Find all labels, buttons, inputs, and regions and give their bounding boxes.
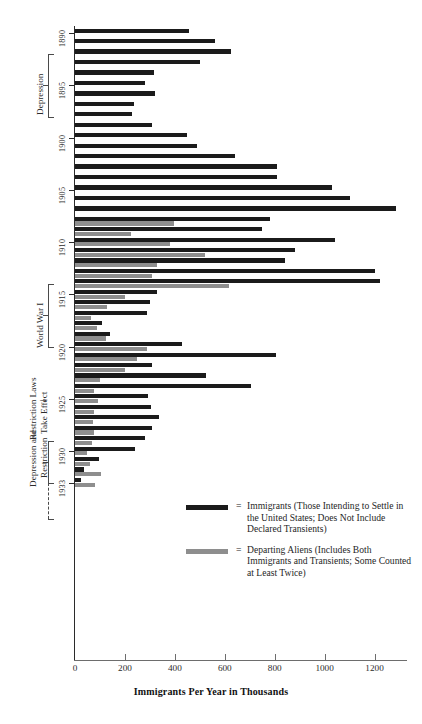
bar-departing-aliens [75, 263, 157, 267]
bar-immigrants [75, 394, 148, 398]
bar-immigrants [75, 185, 332, 189]
bar-row [75, 247, 407, 257]
bar-immigrants [75, 342, 182, 346]
legend-item-departing-aliens: = Departing Aliens (Includes Both Immigr… [186, 544, 414, 579]
bar-row [75, 174, 407, 184]
bar-immigrants [75, 478, 81, 482]
bar-departing-aliens [75, 242, 170, 246]
bar-immigrants [75, 447, 135, 451]
bar-departing-aliens [75, 378, 100, 382]
legend-label-departing-aliens: Departing Aliens (Includes Both Immigran… [247, 544, 414, 579]
bar-immigrants [75, 321, 102, 325]
bar-row [75, 268, 407, 278]
bar-immigrants [75, 258, 285, 262]
bar-departing-aliens [75, 326, 97, 330]
bar-row [75, 237, 407, 247]
x-axis-tick-label: 1000 [315, 663, 333, 673]
bar-departing-aliens [75, 347, 147, 351]
bar-immigrants [75, 81, 145, 85]
bar-row [75, 321, 407, 331]
x-axis-tick [175, 654, 176, 661]
bar-row [75, 436, 407, 446]
bar-row [75, 195, 407, 205]
bar-immigrants [75, 70, 154, 74]
bar-departing-aliens [75, 410, 94, 414]
year-tick [69, 399, 75, 400]
bar-departing-aliens [75, 441, 92, 445]
x-axis-tick-label: 1200 [365, 663, 383, 673]
bar-row [75, 185, 407, 195]
bar-immigrants [75, 91, 155, 95]
year-label: 1895 [58, 82, 67, 99]
bar-row [75, 446, 407, 456]
bar-immigrants [75, 363, 152, 367]
year-tick [69, 347, 75, 348]
bar-row [75, 122, 407, 132]
bar-immigrants [75, 196, 350, 200]
bar-row [75, 143, 407, 153]
x-axis-tick-label: 400 [168, 663, 182, 673]
year-label: 1925 [58, 396, 67, 413]
bar-departing-aliens [75, 357, 137, 361]
bar-departing-aliens [75, 420, 93, 424]
x-axis-tick-label: 0 [73, 663, 78, 673]
bar-row [75, 352, 407, 362]
bar-departing-aliens [75, 472, 101, 476]
bar-row [75, 227, 407, 237]
year-label: 1905 [58, 187, 67, 204]
bar-immigrants [75, 144, 197, 148]
bar-departing-aliens [75, 430, 94, 434]
bar-row [75, 289, 407, 299]
bar-row [75, 91, 407, 101]
bar-immigrants [75, 238, 335, 242]
year-tick [69, 85, 75, 86]
year-tick [69, 138, 75, 139]
bar-row [75, 258, 407, 268]
bar-immigrants [75, 227, 262, 231]
legend-equals-departing: = [236, 544, 241, 555]
bar-immigrants [75, 29, 189, 33]
bar-row [75, 456, 407, 466]
bar-departing-aliens [75, 221, 174, 225]
chart-legend: = Immigrants (Those Intending to Settle … [186, 500, 414, 588]
year-tick [69, 190, 75, 191]
bar-departing-aliens [75, 389, 94, 393]
bar-departing-aliens [75, 284, 229, 288]
bar-row [75, 101, 407, 111]
x-axis-tick [325, 654, 326, 661]
bar-immigrants [75, 217, 270, 221]
bar-immigrants [75, 415, 159, 419]
bar-row [75, 59, 407, 69]
bar-row [75, 49, 407, 59]
x-axis-tick-label: 600 [218, 663, 232, 673]
year-label: 1930 [58, 448, 67, 465]
bar-departing-aliens [75, 336, 106, 340]
bar-immigrants [75, 353, 276, 357]
legend-swatch-immigrants-icon [186, 505, 228, 510]
bar-row [75, 133, 407, 143]
bar-immigrants [75, 279, 380, 283]
bar-row [75, 362, 407, 372]
bar-immigrants [75, 467, 84, 471]
x-axis-tick [275, 654, 276, 661]
bar-departing-aliens [75, 232, 131, 236]
bar-row [75, 28, 407, 38]
bar-immigrants [75, 133, 187, 137]
year-label: 1900 [58, 135, 67, 152]
bar-immigrants [75, 384, 251, 388]
bar-immigrants [75, 373, 206, 377]
bar-row [75, 394, 407, 404]
bar-row [75, 425, 407, 435]
year-label: 1920 [58, 344, 67, 361]
era-label-depression-restriction-line1: Depression and [28, 430, 38, 487]
bar-row [75, 404, 407, 414]
bar-row [75, 279, 407, 289]
bar-immigrants [75, 49, 231, 53]
bar-departing-aliens [75, 274, 152, 278]
bar-departing-aliens [75, 305, 107, 309]
x-axis-tick [125, 654, 126, 661]
year-tick [69, 33, 75, 34]
legend-swatch-departing-aliens-icon [186, 549, 228, 554]
bar-departing-aliens [75, 253, 205, 257]
bar-immigrants [75, 164, 277, 168]
